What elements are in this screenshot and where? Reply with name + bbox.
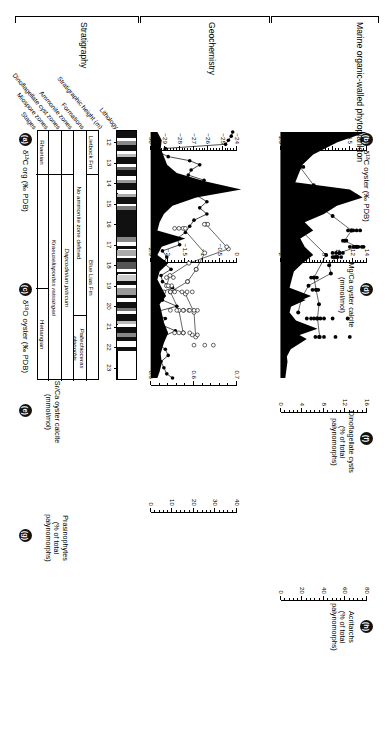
column-headers: StagesMiospore zonesDinoflagellate cyst …: [0, 0, 387, 746]
figure-plate: Stratigraphy Geochemistry Marine organic…: [0, 0, 387, 746]
